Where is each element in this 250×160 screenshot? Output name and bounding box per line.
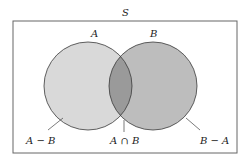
universe-label: S	[122, 7, 129, 18]
label-b-minus-a: B − A	[199, 135, 229, 146]
set-a-label: A	[90, 28, 98, 39]
venn-diagram: S A B A − B A ∩ B B − A	[0, 0, 250, 160]
set-b-label: B	[149, 28, 157, 39]
label-a-minus-b: A − B	[25, 135, 55, 146]
label-intersection: A ∩ B	[109, 135, 139, 146]
